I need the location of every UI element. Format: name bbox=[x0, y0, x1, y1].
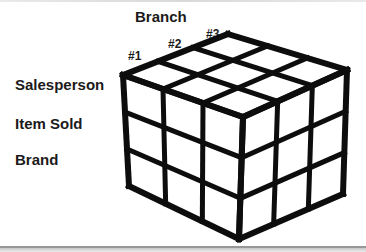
data-cube-figure bbox=[0, 0, 366, 252]
diagram-canvas: Branch #1 #2 #3 Salesperson Item Sold Br… bbox=[0, 0, 366, 252]
slide-bottom-edge bbox=[0, 246, 366, 252]
